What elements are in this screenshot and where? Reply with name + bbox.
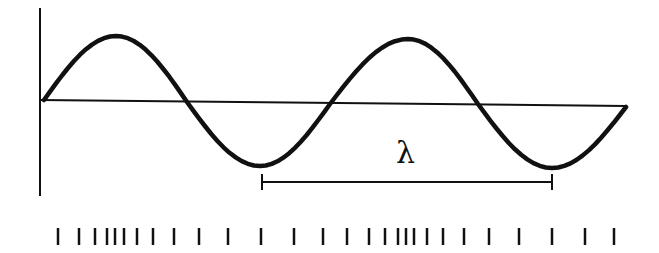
wavelength-label: λ [396,138,415,168]
wave-diagram [0,0,659,253]
wavelength-bracket [262,174,552,190]
sine-wave [44,36,626,168]
density-tick-marks [58,228,614,245]
